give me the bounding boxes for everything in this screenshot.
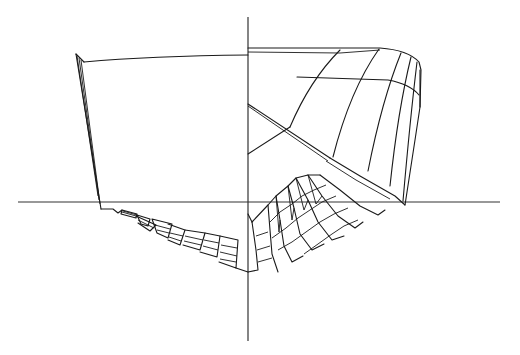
aft-body-sections xyxy=(76,54,248,272)
hull-drawing xyxy=(0,0,520,355)
fore-body-sections xyxy=(248,48,421,272)
hull-body-plan xyxy=(0,0,520,355)
